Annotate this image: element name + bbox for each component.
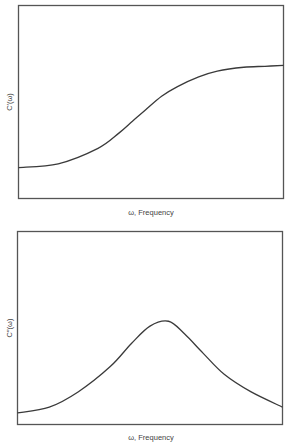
plot-frame-top xyxy=(19,6,284,199)
chart-bottom: C″(ω) ω, Frequency xyxy=(5,232,283,443)
chart-top: C′(ω) ω, Frequency xyxy=(5,6,284,218)
series-line-c-prime xyxy=(19,65,284,167)
figure: C′(ω) ω, Frequency C″(ω) ω, Frequency xyxy=(0,0,290,446)
x-axis-label-bottom: ω, Frequency xyxy=(128,433,174,442)
series-line-c-double-prime xyxy=(18,321,283,413)
y-axis-label-bottom: C″(ω) xyxy=(5,318,14,337)
x-axis-label-top: ω, Frequency xyxy=(128,208,174,217)
plot-frame-bottom xyxy=(18,232,283,425)
y-axis-label-top: C′(ω) xyxy=(5,93,14,111)
